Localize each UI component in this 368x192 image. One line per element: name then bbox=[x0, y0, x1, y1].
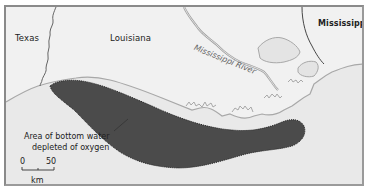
scale-bar bbox=[22, 167, 54, 170]
scale-start: 0 bbox=[20, 157, 25, 166]
legend-line-1: Area of bottom water bbox=[24, 132, 109, 142]
map-frame: Texas Louisiana Mississippi Mississippi … bbox=[4, 5, 364, 186]
label-louisiana: Louisiana bbox=[110, 33, 151, 43]
scale-unit: km bbox=[31, 176, 43, 185]
map-graphic bbox=[6, 7, 364, 186]
legend-line-2: depleted of oxygen bbox=[32, 143, 109, 153]
label-texas: Texas bbox=[15, 33, 39, 43]
label-mississippi: Mississippi bbox=[318, 19, 364, 28]
scale-end: 50 bbox=[46, 157, 56, 166]
